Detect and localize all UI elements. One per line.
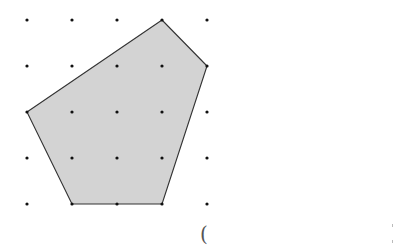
grid-dot [25, 202, 28, 205]
grid-dot [70, 156, 73, 159]
grid-dot [115, 18, 118, 21]
grid-dot [115, 202, 118, 205]
grid-dot [25, 156, 28, 159]
grid-dot [115, 110, 118, 113]
grid-dot [205, 64, 208, 67]
grid-dot [25, 18, 28, 21]
grid-dot [205, 156, 208, 159]
grid-dot [160, 18, 163, 21]
grid-dot [70, 18, 73, 21]
grid-dot [115, 156, 118, 159]
grid-dot [70, 64, 73, 67]
edge-mark [392, 240, 393, 243]
grid-dot [160, 110, 163, 113]
grid-dot [25, 110, 28, 113]
grid-dot [160, 156, 163, 159]
grid-dot [205, 110, 208, 113]
grid-dot [70, 202, 73, 205]
grid-dot [115, 64, 118, 67]
grid-dot [160, 202, 163, 205]
edge-mark [392, 224, 393, 227]
dot-grid-figure [0, 0, 394, 252]
answer-paren: ( [200, 224, 208, 244]
grid-dot [160, 64, 163, 67]
grid-dot [205, 18, 208, 21]
grid-dot [205, 202, 208, 205]
grid-dot [25, 64, 28, 67]
grid-dot [70, 110, 73, 113]
